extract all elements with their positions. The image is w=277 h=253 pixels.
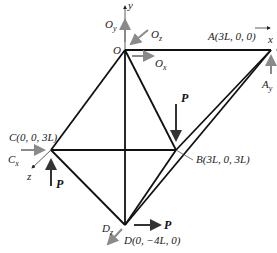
z-axis [32, 150, 51, 168]
reaction-Oz-arrow [131, 30, 148, 44]
node-label-D: D(0, −4L, 0) [123, 234, 181, 247]
loads [51, 104, 176, 225]
z-axis-label: z [26, 170, 32, 182]
truss-members [51, 50, 271, 225]
node-label-B: B(3L, 0, 3L) [196, 153, 250, 166]
member-AD [125, 50, 271, 225]
node-label-A: A(3L, 0, 0) [207, 30, 256, 43]
truss-diagram: y x z O A(3L, 0, 0) B(3L, 0, 3L) [0, 0, 277, 253]
reactions [21, 20, 271, 244]
load-label-C: P [56, 177, 64, 191]
reaction-label-Cx: Cx [8, 153, 19, 168]
node-label-C: C(0, 0, 3L) [9, 131, 58, 144]
reaction-label-Oz: Oz [151, 28, 163, 43]
load-label-B: P [181, 91, 189, 105]
member-OB [125, 50, 176, 150]
member-OC [51, 50, 125, 150]
reaction-label-Ox: Ox [155, 57, 167, 72]
y-axis-label: y [127, 0, 133, 11]
reaction-label-Dz: Dz [101, 222, 114, 237]
reaction-label-Oy: Oy [105, 18, 117, 33]
member-BD [125, 150, 176, 225]
load-label-D: P [164, 218, 172, 232]
node-label-O: O [113, 44, 121, 56]
x-axis-label: x [267, 33, 273, 45]
leader-B [176, 150, 193, 160]
member-AB [176, 50, 271, 150]
reaction-label-Ay: Ay [261, 78, 273, 93]
